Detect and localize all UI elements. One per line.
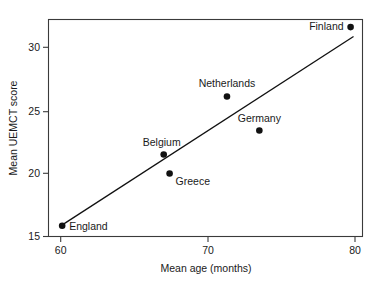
point-label-belgium: Belgium [143,136,181,148]
point-label-netherlands: Netherlands [199,77,256,89]
x-tick-label-60: 60 [55,244,67,256]
data-point-england [59,222,66,229]
y-tick-label-20: 20 [28,167,40,179]
y-axis-title: Mean UEMCT score [7,80,19,175]
point-label-finland: Finland [309,20,344,32]
y-tick-label-30: 30 [28,41,40,53]
x-axis-title: Mean age (months) [160,262,251,274]
x-tick-label-80: 80 [349,244,361,256]
point-label-england: England [69,220,108,232]
trend-line [60,37,354,227]
y-axis-ticks [43,47,49,236]
data-point-finland [347,24,354,31]
scatter-plot-figure: 30 25 20 15 60 70 80 Mean age (months) M… [0,0,381,282]
data-point-greece [166,170,173,177]
data-point-germany [256,127,263,134]
x-axis-ticks [61,237,355,243]
data-point-netherlands [224,93,231,100]
point-label-germany: Germany [238,112,282,124]
data-points-layer: EnglandBelgiumGreeceNetherlandsGermanyFi… [59,20,354,232]
data-point-belgium [160,151,167,158]
y-axis-tick-labels: 30 25 20 15 [28,41,40,242]
x-tick-label-70: 70 [202,244,214,256]
point-label-greece: Greece [176,175,211,187]
y-tick-label-15: 15 [28,230,40,242]
x-axis-tick-labels: 60 70 80 [55,244,361,256]
plot-canvas: 30 25 20 15 60 70 80 Mean age (months) M… [0,0,381,282]
y-tick-label-25: 25 [28,105,40,117]
